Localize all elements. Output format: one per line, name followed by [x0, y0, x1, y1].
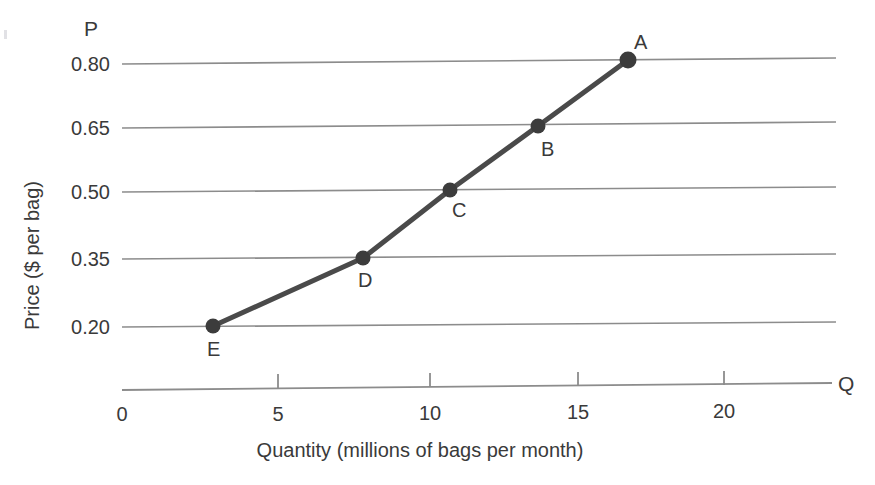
x-tick-label-15: 15: [558, 402, 598, 422]
y-tick-label-035: 0.35: [48, 249, 110, 269]
data-point-e: [206, 319, 221, 334]
chart-screenshot: P Q 0.80 0.65 0.50 0.35 0.20 0 5 10 15 2…: [0, 0, 875, 485]
point-label-a: A: [634, 32, 647, 52]
y-tick-label-050: 0.50: [48, 182, 110, 202]
x-axis-line: [122, 383, 832, 390]
x-tick-label-20: 20: [704, 401, 744, 421]
gridline-080: [122, 58, 836, 64]
supply-curve-line: [213, 60, 628, 326]
data-point-c: [443, 183, 458, 198]
gridline-group: [122, 58, 836, 327]
data-point-d: [356, 251, 371, 266]
x-axis-title: Quantity (millions of bags per month): [110, 440, 730, 460]
x-tick-label-0: 0: [102, 404, 142, 424]
y-axis-title: Price ($ per bag): [22, 181, 42, 330]
point-label-d: D: [358, 270, 372, 290]
x-tick-label-5: 5: [258, 404, 298, 424]
y-tick-label-080: 0.80: [48, 54, 110, 74]
data-point-group: [206, 52, 637, 334]
x-tick-label-10: 10: [410, 403, 450, 423]
price-axis-symbol: P: [84, 18, 98, 39]
gridline-020: [122, 322, 836, 327]
quantity-axis-symbol: Q: [838, 373, 854, 394]
point-label-c: C: [452, 200, 466, 220]
y-tick-label-020: 0.20: [48, 317, 110, 337]
point-label-b: B: [541, 139, 554, 159]
data-point-b: [531, 119, 546, 134]
y-tick-label-065: 0.65: [48, 118, 110, 138]
gridline-050: [122, 187, 836, 192]
data-point-a: [620, 52, 637, 69]
gridline-035: [122, 254, 836, 259]
point-label-e: E: [207, 339, 220, 359]
gridline-065: [122, 122, 836, 128]
